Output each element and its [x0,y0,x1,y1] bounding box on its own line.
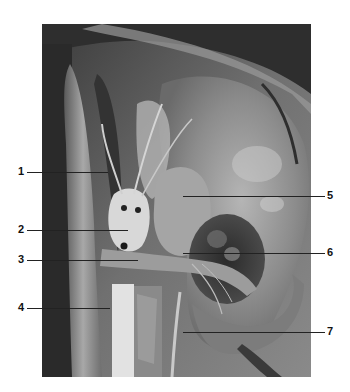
leader-line-7 [183,332,325,333]
leader-line-1 [27,172,108,173]
label-number-3: 3 [18,254,24,265]
label-number-2: 2 [18,224,24,235]
label-number-6: 6 [327,247,333,258]
leader-line-2 [27,230,128,231]
label-number-4: 4 [18,302,24,313]
leader-line-6 [183,253,325,254]
dissection-photo [42,24,311,377]
leader-line-4 [27,308,110,309]
anatomy-figure: 1 2 3 4 5 6 7 [0,0,350,392]
label-number-1: 1 [18,166,24,177]
leader-line-5 [183,196,325,197]
label-number-5: 5 [327,190,333,201]
leader-line-3 [27,260,138,261]
label-number-7: 7 [327,326,333,337]
